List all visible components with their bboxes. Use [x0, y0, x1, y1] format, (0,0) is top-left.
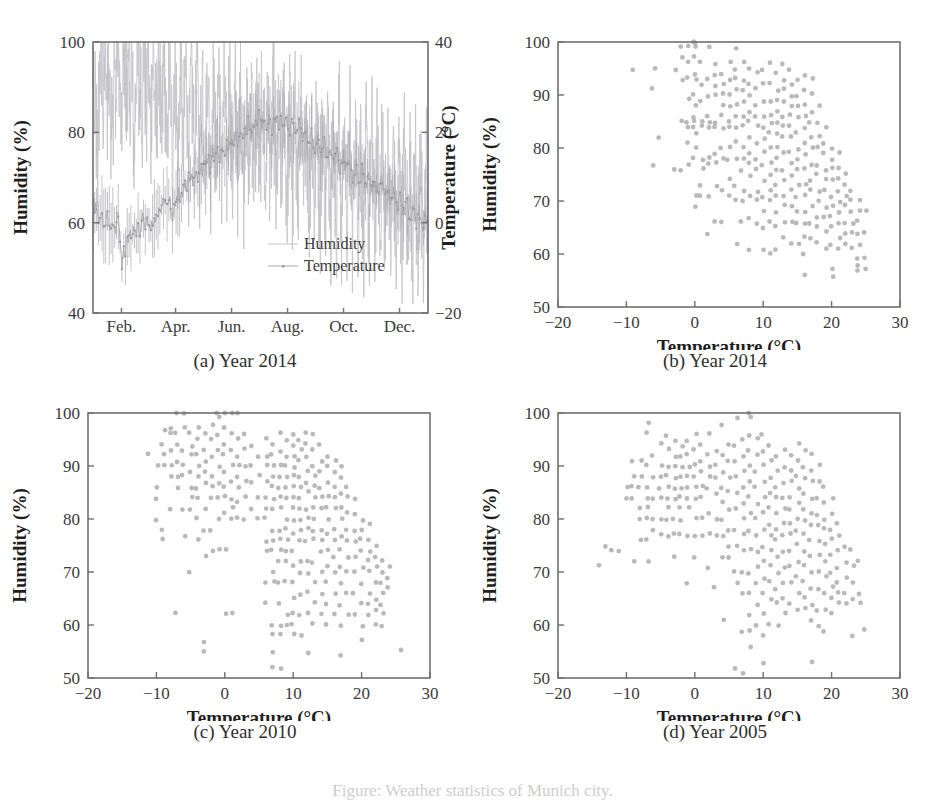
- panel-b-ytick-label: 100: [525, 33, 551, 52]
- scatter-point: [836, 176, 841, 181]
- scatter-point: [809, 523, 814, 528]
- scatter-point: [726, 528, 731, 533]
- scatter-point: [843, 231, 848, 236]
- scatter-point: [284, 454, 289, 459]
- scatter-point: [674, 454, 679, 459]
- panel-a-xtick-label: Apr.: [161, 317, 191, 336]
- scatter-point: [844, 575, 849, 580]
- scatter-point: [768, 563, 773, 568]
- scatter-point: [344, 569, 349, 574]
- scatter-point: [828, 214, 833, 219]
- scatter-point: [666, 534, 671, 539]
- scatter-point: [706, 94, 711, 99]
- panel-b-ytick-label: 70: [533, 192, 550, 211]
- scatter-point: [742, 99, 747, 104]
- scatter-point: [360, 624, 365, 629]
- scatter-point: [721, 470, 726, 475]
- scatter-point: [769, 160, 774, 165]
- scatter-point: [789, 173, 794, 178]
- scatter-point: [175, 442, 180, 447]
- scatter-point: [160, 537, 165, 542]
- scatter-point: [719, 517, 724, 522]
- scatter-point: [775, 131, 780, 136]
- scatter-point: [760, 545, 765, 550]
- scatter-point: [231, 505, 236, 510]
- scatter-point: [836, 246, 841, 251]
- scatter-point: [774, 167, 779, 172]
- scatter-point: [817, 539, 822, 544]
- scatter-point: [829, 195, 834, 200]
- scatter-point: [339, 475, 344, 480]
- scatter-point: [810, 204, 815, 209]
- scatter-point: [291, 505, 296, 510]
- scatter-point: [802, 126, 807, 131]
- scatter-point: [146, 452, 151, 457]
- scatter-point: [713, 462, 718, 467]
- scatter-point: [780, 115, 785, 120]
- scatter-point: [306, 611, 311, 616]
- scatter-point: [694, 432, 699, 437]
- scatter-point: [685, 496, 690, 501]
- scatter-point: [837, 533, 842, 538]
- scatter-point: [203, 469, 208, 474]
- scatter-point: [659, 517, 664, 522]
- scatter-point: [728, 60, 733, 65]
- scatter-point: [222, 425, 227, 430]
- scatter-point: [742, 189, 747, 194]
- scatter-point: [842, 182, 847, 187]
- scatter-point: [748, 173, 753, 178]
- legend-label-humidity: Humidity: [304, 235, 365, 253]
- scatter-point: [700, 533, 705, 538]
- scatter-point: [828, 552, 833, 557]
- scatter-point: [830, 157, 835, 162]
- scatter-point: [762, 178, 767, 183]
- scatter-point: [803, 221, 808, 226]
- scatter-point: [720, 188, 725, 193]
- scatter-point: [154, 518, 159, 523]
- scatter-point: [801, 491, 806, 496]
- scatter-point: [794, 221, 799, 226]
- scatter-point: [761, 510, 766, 515]
- scatter-point: [855, 268, 860, 273]
- scatter-point: [345, 538, 350, 543]
- scatter-point: [835, 189, 840, 194]
- scatter-point: [821, 629, 826, 634]
- scatter-point: [673, 497, 678, 502]
- scatter-point: [775, 145, 780, 150]
- scatter-point: [289, 622, 294, 627]
- panel-b-xtick-label: 10: [755, 313, 772, 332]
- panel-b-xtick-label: 0: [691, 313, 700, 332]
- scatter-point: [787, 67, 792, 72]
- scatter-point: [691, 125, 696, 130]
- scatter-point: [667, 447, 672, 452]
- scatter-point: [739, 629, 744, 634]
- scatter-point: [755, 141, 760, 146]
- scatter-point: [796, 458, 801, 463]
- scatter-point: [831, 274, 836, 279]
- scatter-point: [774, 454, 779, 459]
- scatter-point: [373, 622, 378, 627]
- scatter-point: [332, 484, 337, 489]
- scatter-point: [747, 591, 752, 596]
- scatter-point: [686, 44, 691, 49]
- scatter-point: [783, 220, 788, 225]
- scatter-point: [630, 459, 635, 464]
- scatter-point: [747, 628, 752, 633]
- scatter-point: [180, 448, 185, 453]
- panel-c-ytick-label: 100: [55, 404, 81, 423]
- scatter-point: [324, 505, 329, 510]
- scatter-point: [781, 549, 786, 554]
- scatter-point: [680, 444, 685, 449]
- scatter-point: [159, 527, 164, 532]
- scatter-point: [780, 496, 785, 501]
- scatter-point: [270, 632, 275, 637]
- scatter-point: [834, 566, 839, 571]
- scatter-point: [794, 474, 799, 479]
- scatter-point: [388, 564, 393, 569]
- scatter-point: [821, 141, 826, 146]
- scatter-point: [747, 66, 752, 71]
- scatter-point: [298, 518, 303, 523]
- scatter-point: [685, 485, 690, 490]
- scatter-point: [701, 166, 706, 171]
